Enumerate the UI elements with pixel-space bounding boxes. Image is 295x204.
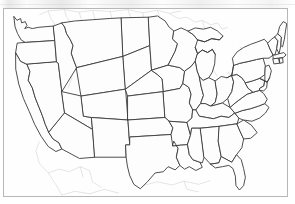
state-or [16, 41, 57, 65]
state-nm [91, 117, 129, 157]
state-ct [273, 58, 279, 64]
state-wa [14, 17, 55, 43]
us-map-svg [4, 9, 287, 196]
state-ri [280, 58, 284, 63]
state-in [199, 77, 217, 106]
state-borders-layer [14, 16, 287, 190]
state-ks [128, 92, 165, 120]
scan-artifact-band [0, 0, 295, 8]
state-tx [126, 135, 180, 189]
us-outline-map-figure [0, 0, 295, 204]
map-frame-border [3, 8, 288, 197]
